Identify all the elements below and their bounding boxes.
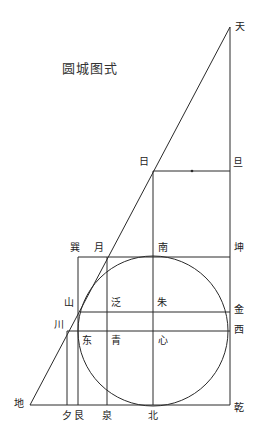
- label-chuan: 川: [54, 320, 64, 330]
- label-yue: 月: [94, 243, 104, 253]
- label-jin: 金: [234, 305, 244, 315]
- circle-city-diagram: [0, 0, 262, 436]
- label-xun: 巽: [70, 243, 80, 253]
- label-ri: 日: [139, 157, 149, 167]
- label-kun: 坤: [234, 243, 244, 253]
- label-xi-west: 西: [234, 325, 244, 335]
- label-dong: 东: [82, 336, 92, 346]
- hypotenuse-line: [30, 27, 230, 405]
- diagram-title: 圆城图式: [62, 58, 118, 77]
- label-fan: 泛: [111, 298, 121, 308]
- label-gen: 艮: [74, 411, 84, 421]
- label-qian: 乾: [234, 403, 244, 413]
- label-bei: 北: [148, 411, 158, 421]
- label-xin: 心: [158, 336, 168, 346]
- label-zhu: 朱: [157, 298, 167, 308]
- label-di: 地: [14, 399, 24, 409]
- label-shan: 山: [64, 298, 74, 308]
- label-xi-dusk: 夕: [62, 411, 72, 421]
- label-quan: 泉: [102, 411, 112, 421]
- label-dan: 旦: [233, 158, 243, 168]
- label-tian: 天: [235, 22, 245, 32]
- label-qing: 青: [111, 336, 121, 346]
- label-nan: 南: [158, 243, 168, 253]
